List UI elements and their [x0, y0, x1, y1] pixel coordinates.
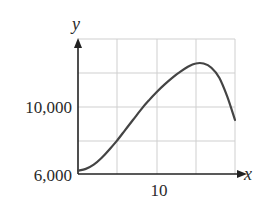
y-tick-10000: 10,000 [25, 98, 72, 117]
x-tick-10: 10 [151, 181, 168, 200]
y-axis-label: y [70, 14, 80, 34]
grid [78, 39, 235, 174]
x-axis-label: x [243, 164, 252, 184]
chart: y x 10,000 6,000 10 [0, 0, 258, 203]
axes [74, 38, 247, 178]
y-tick-6000: 6,000 [34, 166, 72, 185]
